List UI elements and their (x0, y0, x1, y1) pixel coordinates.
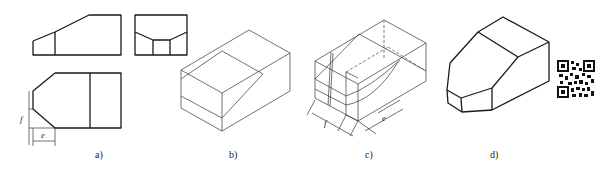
panel-a-top-view (33, 73, 121, 128)
dimension-e-label: e (41, 130, 45, 140)
caption-d: d) (490, 149, 498, 161)
panel-c-dimensions: f e (307, 100, 403, 136)
panel-c-construction (315, 20, 426, 121)
dimension-e-label-c: e (382, 113, 386, 123)
panel-a-side-view (135, 15, 187, 55)
panel-b-isometric-box (181, 30, 290, 131)
caption-a: a) (95, 149, 103, 161)
figure-canvas: f e a) b) (0, 0, 606, 171)
caption-b: b) (229, 149, 237, 161)
dimension-f-label: f (20, 114, 24, 124)
qr-code-icon (557, 60, 595, 98)
caption-c: c) (365, 149, 373, 161)
dimension-f-label-c: f (324, 118, 328, 128)
panel-a-dimensions: f e (20, 91, 55, 146)
panel-a-front-view (33, 15, 121, 55)
panel-d-finished-part (447, 17, 549, 112)
